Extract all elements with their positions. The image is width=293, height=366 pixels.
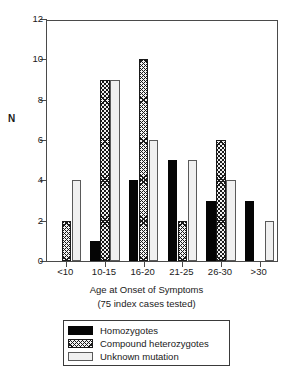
bar bbox=[139, 59, 149, 261]
legend-swatch-icon bbox=[68, 352, 93, 361]
bar bbox=[168, 160, 178, 261]
legend-swatch-icon bbox=[68, 339, 93, 348]
figure: N 024681012 <1010-1516-2021-2526-30>30 A… bbox=[0, 0, 293, 366]
bar bbox=[188, 160, 198, 261]
legend-item-label: Compound heterozygotes bbox=[100, 338, 209, 349]
legend-item: Homozygotes bbox=[68, 324, 225, 336]
bar bbox=[110, 80, 120, 262]
bar bbox=[149, 140, 159, 261]
legend-swatch-icon bbox=[68, 326, 93, 335]
bar-group bbox=[52, 21, 82, 261]
plot-area: 024681012 bbox=[46, 20, 278, 262]
bar-group bbox=[90, 21, 120, 261]
bar bbox=[265, 221, 275, 261]
bar-group bbox=[245, 21, 275, 261]
bar bbox=[178, 221, 188, 261]
legend-item-label: Homozygotes bbox=[100, 325, 158, 336]
bar-group bbox=[206, 21, 236, 261]
bar bbox=[206, 201, 216, 262]
bar bbox=[72, 180, 82, 261]
bar bbox=[216, 140, 226, 261]
y-tick-label: 2 bbox=[38, 214, 43, 227]
bar-group bbox=[129, 21, 159, 261]
legend-item: Unknown mutation bbox=[68, 350, 225, 362]
y-tick-label: 6 bbox=[38, 133, 43, 146]
bar bbox=[62, 221, 72, 261]
x-axis-title: Age at Onset of Symptoms bbox=[0, 283, 293, 296]
legend-item-label: Unknown mutation bbox=[100, 351, 179, 362]
x-tick-label: >30 bbox=[234, 266, 284, 278]
x-axis-subtitle: (75 index cases tested) bbox=[0, 297, 293, 310]
bar bbox=[129, 180, 139, 261]
y-tick-label: 4 bbox=[38, 173, 43, 186]
bar bbox=[100, 80, 110, 262]
y-axis-title: N bbox=[8, 113, 16, 124]
y-tick-label: 8 bbox=[38, 93, 43, 106]
y-tick-label: 12 bbox=[32, 12, 43, 25]
bar-group bbox=[168, 21, 198, 261]
legend-item: Compound heterozygotes bbox=[68, 337, 225, 349]
y-tick-label: 10 bbox=[32, 52, 43, 65]
bar bbox=[245, 201, 255, 262]
bar bbox=[226, 180, 236, 261]
bar bbox=[90, 241, 100, 261]
chart-legend: HomozygotesCompound heterozygotesUnknown… bbox=[63, 320, 230, 366]
